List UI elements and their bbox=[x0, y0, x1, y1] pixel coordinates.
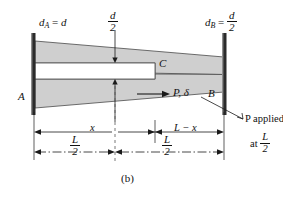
label-dB: dB = d 2 bbox=[205, 10, 237, 33]
note-line2-numerator: L bbox=[260, 132, 270, 144]
label-d-half-top: d 2 bbox=[108, 10, 118, 33]
note-line2-prefix: at bbox=[250, 138, 258, 149]
label-dB-subscript: B bbox=[211, 21, 216, 30]
lx-arrow-right bbox=[217, 129, 224, 135]
tapered-bar-figure bbox=[0, 0, 283, 199]
label-half-L-right: L 2 bbox=[162, 134, 172, 157]
label-dimension-x: x bbox=[90, 122, 95, 133]
label-half-L-left: L 2 bbox=[70, 134, 80, 157]
label-d-half-fraction: d 2 bbox=[108, 10, 118, 33]
note-line1-text: P applied bbox=[245, 113, 283, 124]
x-arrow-right bbox=[148, 129, 155, 135]
label-half-L-right-denominator: 2 bbox=[162, 146, 172, 157]
label-half-L-left-denominator: 2 bbox=[70, 146, 80, 157]
lx-arrow-left bbox=[155, 129, 162, 135]
label-dB-equals: = bbox=[218, 16, 224, 28]
halfL-left-arrow-end bbox=[108, 149, 115, 155]
left-wall-highlight bbox=[31, 33, 32, 115]
label-point-A: A bbox=[18, 90, 25, 102]
inner-slot bbox=[35, 63, 155, 79]
label-half-L-right-fraction: L 2 bbox=[162, 134, 172, 157]
halfL-left-arrow-start bbox=[34, 149, 41, 155]
bar-body bbox=[35, 41, 224, 108]
label-dB-denominator: 2 bbox=[227, 22, 237, 33]
label-point-B: B bbox=[208, 87, 215, 99]
right-wall-highlight bbox=[222, 33, 223, 115]
note-P-applied-line2: at L 2 bbox=[250, 132, 270, 154]
label-dA-equals: = bbox=[52, 16, 58, 28]
label-half-L-left-fraction: L 2 bbox=[70, 134, 80, 157]
halfL-right-arrow-end bbox=[217, 149, 224, 155]
label-load-P-delta: P, δ bbox=[173, 86, 189, 98]
label-dA-value: d bbox=[61, 16, 67, 28]
note-line2-denominator: 2 bbox=[260, 144, 270, 155]
label-dB-fraction: d 2 bbox=[227, 10, 237, 33]
label-dA: dA = d bbox=[39, 16, 67, 30]
figure-caption: (b) bbox=[121, 172, 134, 184]
label-dimension-L-minus-x: L − x bbox=[174, 122, 197, 133]
note-line2-fraction: L 2 bbox=[260, 132, 270, 154]
label-point-C: C bbox=[159, 57, 166, 69]
halfL-right-arrow-start bbox=[115, 149, 122, 155]
label-dA-subscript: A bbox=[45, 21, 50, 30]
extension-lines bbox=[34, 112, 224, 160]
x-arrow-left bbox=[34, 129, 41, 135]
note-P-applied-line1: P applied bbox=[245, 113, 283, 124]
label-d-half-denominator: 2 bbox=[108, 22, 118, 33]
